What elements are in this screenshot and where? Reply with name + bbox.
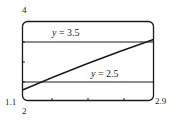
- upper-line-label: y = 3.5: [52, 28, 80, 38]
- chart-plot: [0, 0, 177, 121]
- upper-line-value: = 3.5: [56, 27, 79, 38]
- lower-line-value: = 2.5: [95, 68, 118, 79]
- lower-line-label: y = 2.5: [91, 69, 119, 79]
- x-axis-max-label: 2.9: [155, 97, 166, 106]
- y-axis-min-label: 2: [22, 107, 27, 116]
- x-axis-min-label: 1.1: [5, 98, 16, 107]
- viewing-window-frame: [23, 22, 154, 101]
- y-axis-max-label: 4: [22, 6, 27, 15]
